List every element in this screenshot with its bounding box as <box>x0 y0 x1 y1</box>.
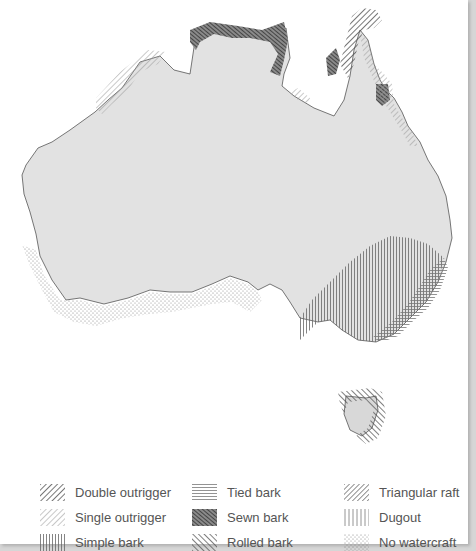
single-outrigger-swatch-icon <box>40 509 65 526</box>
legend-label: Single outrigger <box>75 510 166 525</box>
sewn-bark-swatch-icon <box>192 509 217 526</box>
legend-label: Double outrigger <box>75 485 171 500</box>
simple-bark-swatch-icon <box>40 534 65 551</box>
rolled-bark-swatch-icon <box>192 534 217 551</box>
no-watercraft-swatch-icon <box>344 534 369 551</box>
legend-label: Simple bark <box>75 535 144 550</box>
region-sewn-bark-cape-west <box>326 48 340 76</box>
australia-map <box>0 0 468 450</box>
legend-item-single-outrigger: Single outrigger <box>40 505 192 530</box>
legend-item-dugout: Dugout <box>344 505 464 530</box>
legend-label: No watercraft <box>379 535 456 550</box>
legend-label: Rolled bark <box>227 535 293 550</box>
double-outrigger-swatch-icon <box>40 484 65 501</box>
legend-item-rolled-bark: Rolled bark <box>192 530 344 551</box>
legend-item-triangular-raft: Triangular raft <box>344 480 464 505</box>
dugout-swatch-icon <box>344 509 369 526</box>
legend-item-simple-bark: Simple bark <box>40 530 192 551</box>
tied-bark-swatch-icon <box>192 484 217 501</box>
legend-label: Dugout <box>379 510 421 525</box>
legend-item-sewn-bark: Sewn bark <box>192 505 344 530</box>
legend-label: Triangular raft <box>379 485 459 500</box>
legend-item-tied-bark: Tied bark <box>192 480 344 505</box>
legend: Double outrigger Single outrigger Simple… <box>40 480 460 540</box>
legend-label: Sewn bark <box>227 510 288 525</box>
legend-label: Tied bark <box>227 485 281 500</box>
triangular-raft-swatch-icon <box>344 484 369 501</box>
legend-item-no-watercraft: No watercraft <box>344 530 464 551</box>
legend-item-double-outrigger: Double outrigger <box>40 480 192 505</box>
figure-page: Double outrigger Single outrigger Simple… <box>0 0 468 544</box>
